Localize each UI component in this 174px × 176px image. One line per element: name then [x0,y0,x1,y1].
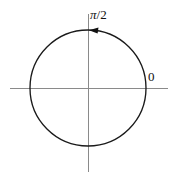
unit-circle-figure: π/2 0 [0,0,174,176]
label-pi-denominator: 2 [100,7,107,22]
counterclockwise-arrow-icon [89,27,99,33]
unit-circle-canvas [0,0,174,176]
label-zero: 0 [148,70,155,83]
label-pi-over-2: π/2 [90,8,107,21]
